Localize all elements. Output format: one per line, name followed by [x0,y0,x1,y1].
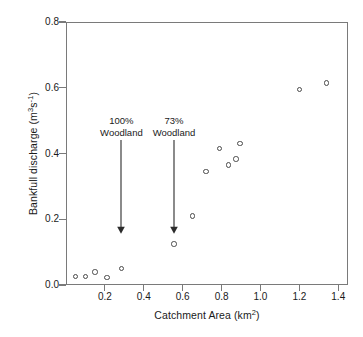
x-tick-label: 1.0 [245,292,275,302]
y-tick-mark [59,219,66,220]
plot-frame [66,22,348,285]
x-tick-label: 0.2 [90,292,120,302]
data-point-marker [324,80,329,85]
y-tick-mark [59,153,66,154]
scatter-plot-figure: 0.00.20.40.60.8 0.20.40.60.81.01.21.4 10… [0,0,363,337]
annotation-woodland-text: Woodland [131,127,217,139]
x-tick-label: 0.8 [207,292,237,302]
y-axis-title: Bankfull discharge (m3s-1) [22,22,40,285]
y-axis-title-text: Bankfull discharge (m [27,112,39,215]
y-axis-title-superscript-minus1: -1 [26,96,35,103]
x-tick-label: 0.6 [168,292,198,302]
x-tick-label: 1.4 [323,292,353,302]
x-axis-title: Catchment Area (km2) [66,308,348,321]
y-axis-title-text-mid: s [27,102,39,107]
data-point-marker [190,213,195,218]
y-axis-title-superscript-3: 3 [26,108,35,112]
data-point-marker [203,169,208,174]
data-point-marker [226,162,231,167]
data-point-marker [233,156,238,161]
annotation-percent-text: 73% [131,115,217,127]
data-point-marker [92,269,97,274]
data-point-marker [237,141,242,146]
annotation-arrow-2 [167,140,181,236]
x-tick-label: 0.4 [129,292,159,302]
data-point-marker [104,275,109,280]
x-tick-label: 1.2 [284,292,314,302]
y-tick-mark [59,21,66,22]
annotation-label-2: 73%Woodland [131,115,217,138]
data-point-marker [171,241,176,246]
annotation-arrow-1 [114,140,128,236]
y-tick-mark [59,87,66,88]
y-axis-title-text-end: ) [27,92,39,96]
y-tick-mark [59,284,66,285]
x-axis-title-text: Catchment Area (km [154,309,252,321]
x-axis-title-text-end: ) [256,309,260,321]
